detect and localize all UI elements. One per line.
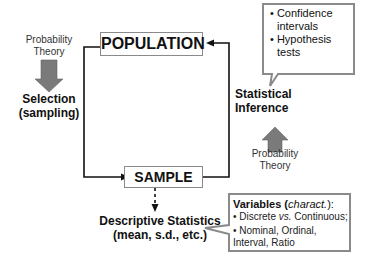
callout-item-hypothesis: • Hypothesis tests	[270, 33, 354, 59]
sample-box: SAMPLE	[124, 166, 203, 188]
descriptive-line2: (mean, s.d., etc.)	[90, 228, 230, 242]
down-arrow-icon	[35, 60, 63, 92]
inference-line1: Statistical	[235, 87, 315, 101]
bullet-icon: •	[270, 33, 277, 45]
probability-theory-left-line1: Probability	[14, 34, 84, 46]
variables-title: Variables (charact.):	[233, 197, 351, 211]
probability-theory-right-line1: Probability	[240, 148, 310, 160]
probability-theory-left-line2: Theory	[14, 46, 84, 58]
selection-line1: Selection	[10, 92, 88, 106]
probability-theory-right-line2: Theory	[240, 160, 310, 172]
inference-callout: • Confidence intervals • Hypothesis test…	[270, 7, 354, 59]
variables-callout: Variables (charact.): • Discrete vs. Con…	[233, 197, 351, 249]
diagram-canvas: POPULATION SAMPLE Probability Theory Sel…	[0, 0, 369, 271]
descriptive-line1: Descriptive Statistics	[90, 214, 230, 228]
probability-theory-right: Probability Theory	[240, 148, 310, 172]
selection-line2: (sampling)	[10, 106, 88, 120]
inference-line2: Inference	[235, 101, 315, 115]
callout-item-confidence: • Confidence intervals	[270, 7, 354, 33]
variables-item-discrete: • Discrete vs. Continuous;	[233, 211, 351, 223]
population-box: POPULATION	[100, 32, 203, 56]
statistical-inference-label: Statistical Inference	[235, 87, 315, 115]
variables-item-scales: • Nominal, Ordinal, Interval, Ratio	[233, 225, 351, 249]
bullet-icon: •	[270, 7, 277, 19]
descriptive-statistics-label: Descriptive Statistics (mean, s.d., etc.…	[90, 214, 230, 242]
selection-sampling-label: Selection (sampling)	[10, 92, 88, 120]
probability-theory-left: Probability Theory	[14, 34, 84, 58]
